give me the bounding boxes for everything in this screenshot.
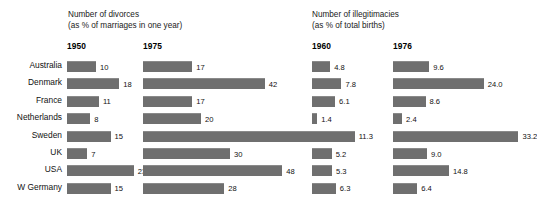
bar-value-illegitimacies-1960-uk: 5.2: [336, 150, 347, 159]
bar-value-divorces-1950-australia: 10: [100, 63, 108, 72]
bar-illegitimacies-1960-australia: [312, 61, 330, 72]
bar-divorces-1975-netherlands: [143, 113, 201, 124]
bar-value-illegitimacies-1960-france: 6.1: [339, 97, 350, 106]
bar-value-divorces-1950-netherlands: 8: [94, 115, 98, 124]
bar-value-illegitimacies-1960-netherlands: 1.4: [321, 115, 332, 124]
bar-divorces-1975-usa: [143, 165, 282, 176]
bar-illegitimacies-1976-sweden: [393, 131, 518, 142]
category-label-uk: UK: [0, 147, 62, 158]
bar-value-illegitimacies-1976-usa: 14.8: [453, 167, 468, 176]
bar-value-illegitimacies-1960-usa: 5.3: [336, 167, 347, 176]
panel-title-line2-illegitimacies: (as % of total births): [312, 21, 399, 32]
bar-illegitimacies-1960-uk: [312, 148, 332, 159]
bar-illegitimacies-1976-netherlands: [393, 113, 402, 124]
year-header-1950: 1950: [67, 41, 86, 51]
bar-divorces-1975-sweden: [143, 131, 314, 142]
bar-value-divorces-1950-denmark: 18: [123, 80, 131, 89]
year-header-1960: 1960: [312, 41, 331, 51]
bar-divorces-1950-usa: [67, 165, 134, 176]
bar-divorces-1975-france: [143, 96, 192, 107]
bar-illegitimacies-1960-usa: [312, 165, 332, 176]
bar-value-divorces-1975-w-germany: 28: [228, 184, 236, 193]
bar-divorces-1975-w-germany: [143, 183, 224, 194]
bar-value-illegitimacies-1976-sweden: 33.2: [522, 132, 537, 141]
panel-title-divorces: Number of divorces(as % of marriages in …: [68, 10, 182, 31]
bar-illegitimacies-1960-denmark: [312, 78, 341, 89]
bar-illegitimacies-1976-usa: [393, 165, 449, 176]
panel-title-illegitimacies: Number of illegitimacies(as % of total b…: [312, 10, 399, 31]
bar-value-divorces-1950-sweden: 15: [115, 132, 123, 141]
bar-illegitimacies-1976-france: [393, 96, 426, 107]
bar-value-divorces-1975-france: 17: [196, 97, 204, 106]
bar-divorces-1950-denmark: [67, 78, 119, 89]
bar-illegitimacies-1960-france: [312, 96, 335, 107]
bar-value-illegitimacies-1960-sweden: 11.3: [359, 132, 373, 141]
bar-divorces-1950-australia: [67, 61, 96, 72]
category-label-netherlands: Netherlands: [0, 112, 62, 123]
bar-illegitimacies-1960-sweden: [312, 131, 355, 142]
bar-divorces-1950-netherlands: [67, 113, 90, 124]
bar-value-illegitimacies-1960-denmark: 7.8: [345, 80, 356, 89]
panel-title-line1-illegitimacies: Number of illegitimacies: [312, 10, 399, 21]
category-label-france: France: [0, 95, 62, 106]
bar-illegitimacies-1976-uk: [393, 148, 427, 159]
panel-title-line2-divorces: (as % of marriages in one year): [68, 21, 182, 32]
bar-divorces-1950-france: [67, 96, 99, 107]
bar-value-divorces-1950-france: 11: [103, 97, 111, 106]
bar-value-divorces-1950-w-germany: 15: [115, 184, 123, 193]
bar-illegitimacies-1976-w-germany: [393, 183, 417, 194]
bar-divorces-1975-australia: [143, 61, 192, 72]
bar-value-divorces-1975-australia: 17: [196, 63, 204, 72]
bar-divorces-1975-denmark: [143, 78, 265, 89]
bar-illegitimacies-1976-denmark: [393, 78, 484, 89]
bar-value-divorces-1975-denmark: 42: [269, 80, 277, 89]
bar-illegitimacies-1960-w-germany: [312, 183, 336, 194]
bar-value-divorces-1950-uk: 7: [91, 150, 95, 159]
bar-value-divorces-1975-usa: 48: [286, 167, 294, 176]
bar-divorces-1950-w-germany: [67, 183, 111, 194]
category-label-australia: Australia: [0, 60, 62, 71]
bar-value-illegitimacies-1976-w-germany: 6.4: [421, 184, 432, 193]
category-label-usa: USA: [0, 164, 62, 175]
bar-value-illegitimacies-1976-uk: 9.0: [431, 150, 442, 159]
category-label-sweden: Sweden: [0, 130, 62, 141]
bar-value-illegitimacies-1976-france: 8.6: [430, 97, 441, 106]
category-label-w-germany: W Germany: [0, 182, 62, 193]
panel-title-line1-divorces: Number of divorces: [68, 10, 182, 21]
bar-divorces-1950-uk: [67, 148, 87, 159]
bar-value-illegitimacies-1976-netherlands: 2.4: [406, 115, 417, 124]
bar-illegitimacies-1960-netherlands: [312, 113, 317, 124]
bar-value-divorces-1975-uk: 30: [234, 150, 242, 159]
bar-divorces-1975-uk: [143, 148, 230, 159]
bar-value-divorces-1975-netherlands: 20: [205, 115, 213, 124]
bar-value-illegitimacies-1960-australia: 4.8: [334, 63, 345, 72]
year-header-1975: 1975: [143, 41, 162, 51]
category-label-denmark: Denmark: [0, 77, 62, 88]
bar-divorces-1950-sweden: [67, 131, 111, 142]
year-header-1976: 1976: [393, 41, 412, 51]
bar-value-illegitimacies-1960-w-germany: 6.3: [340, 184, 351, 193]
bar-illegitimacies-1976-australia: [393, 61, 429, 72]
bar-value-illegitimacies-1976-denmark: 24.0: [488, 80, 503, 89]
bar-value-illegitimacies-1976-australia: 9.6: [433, 63, 444, 72]
